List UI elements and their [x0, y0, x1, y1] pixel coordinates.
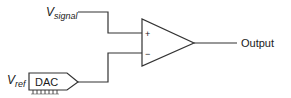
- opamp-minus: −: [145, 49, 150, 59]
- signal-wire: [78, 12, 142, 33]
- dac-label: DAC: [35, 76, 58, 88]
- circuit-diagram: Vsignal + − Output Vref DAC: [0, 0, 291, 98]
- v-signal-label: Vsignal: [46, 5, 79, 21]
- output-label: Output: [241, 37, 274, 49]
- opamp-plus: +: [145, 29, 150, 39]
- v-ref-label: Vref: [7, 73, 27, 89]
- reference-wire: [78, 53, 142, 82]
